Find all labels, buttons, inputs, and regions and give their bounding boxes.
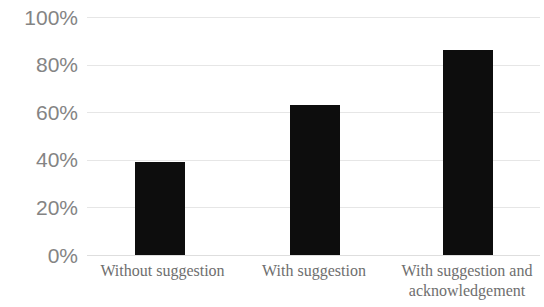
x-axis-label-with-suggestion: With suggestion	[244, 261, 384, 281]
x-axis-label-without-suggestion: Without suggestion	[85, 261, 240, 281]
y-axis-tick-label-40: 40%	[6, 149, 78, 170]
bar-with-suggestion	[290, 105, 340, 255]
bar-without-suggestion	[135, 162, 185, 255]
plot-area	[87, 17, 540, 255]
bar-with-suggestion-and-acknowledgement	[443, 50, 493, 255]
bar-chart: 100% 80% 60% 40% 20% 0% Without suggesti…	[0, 0, 544, 307]
y-axis-tick-label-80: 80%	[6, 54, 78, 75]
y-axis-tick-label-100: 100%	[6, 7, 78, 28]
gridline-100	[87, 17, 540, 18]
x-axis-label-with-suggestion-and-acknowledgement: With suggestion and acknowledgement	[390, 261, 544, 301]
y-axis-tick-label-20: 20%	[6, 197, 78, 218]
y-axis-tick-label-0: 0%	[6, 245, 78, 266]
gridline-0-baseline	[87, 255, 540, 256]
y-axis-tick-label-60: 60%	[6, 102, 78, 123]
